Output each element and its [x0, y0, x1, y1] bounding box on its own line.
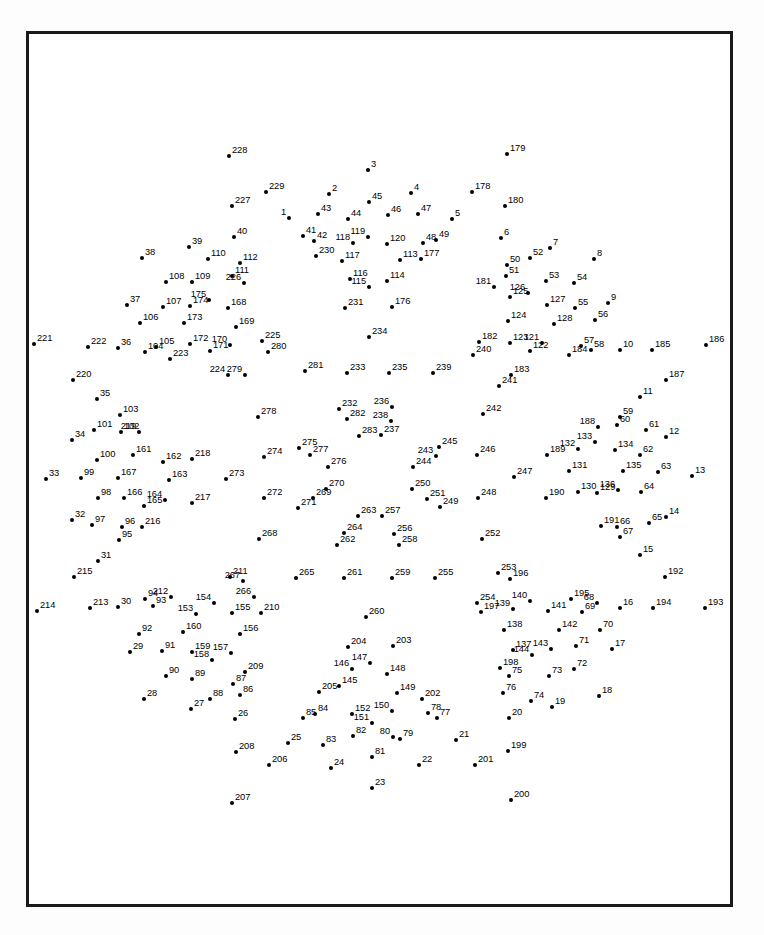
dot-number-252: 252: [485, 529, 500, 538]
dot-number-19: 19: [555, 697, 565, 706]
dot-number-13: 13: [695, 466, 705, 475]
dot-marker-189: [545, 453, 549, 457]
dot-number-15: 15: [643, 545, 653, 554]
dot-number-192: 192: [668, 567, 683, 576]
dot-number-142: 142: [562, 620, 577, 629]
dot-marker-145: [337, 684, 341, 688]
dot-marker-203: [391, 644, 395, 648]
dot-marker-251: [425, 497, 429, 501]
dot-marker-72: [572, 667, 576, 671]
dot-marker-80: [391, 735, 395, 739]
dot-number-248: 248: [481, 488, 496, 497]
dot-marker-268: [257, 537, 261, 541]
dot-number-177: 177: [424, 249, 439, 258]
dot-marker-254: [475, 601, 479, 605]
dot-marker-141: [546, 609, 550, 613]
dot-marker-101: [92, 428, 96, 432]
dot-marker-56: [593, 318, 597, 322]
dot-number-227: 227: [235, 196, 250, 205]
dot-marker-83: [321, 743, 325, 747]
dot-marker-32: [70, 518, 74, 522]
dot-number-253: 253: [501, 563, 516, 572]
dot-marker-54: [572, 281, 576, 285]
dot-marker-60: [615, 423, 619, 427]
dot-number-171: 171: [213, 341, 228, 350]
dot-marker-173: [182, 321, 186, 325]
dot-number-112: 112: [243, 253, 258, 262]
dot-number-235: 235: [392, 363, 407, 372]
dot-marker-39: [187, 245, 191, 249]
dot-marker-118: [351, 241, 355, 245]
dot-number-229: 229: [269, 182, 284, 191]
dot-marker-135: [621, 469, 625, 473]
dot-number-232: 232: [342, 399, 357, 408]
dot-marker-166: [122, 496, 126, 500]
dot-number-143: 143: [533, 639, 548, 648]
dot-number-109: 109: [195, 272, 210, 281]
dot-marker-241: [497, 384, 501, 388]
dot-number-255: 255: [438, 568, 453, 577]
dot-number-42: 42: [317, 231, 327, 240]
dot-number-122: 122: [533, 341, 548, 350]
dot-number-160: 160: [186, 622, 201, 631]
dot-marker-259: [390, 576, 394, 580]
dot-number-11: 11: [643, 387, 652, 396]
dot-marker-38: [140, 256, 144, 260]
dot-number-126: 126: [510, 283, 525, 292]
dot-number-189: 189: [550, 445, 565, 454]
dot-marker-27: [189, 707, 193, 711]
dot-marker-200: [509, 798, 513, 802]
dot-marker-202: [420, 697, 424, 701]
dot-number-219: 219: [121, 422, 136, 431]
dot-number-80: 80: [380, 727, 390, 736]
dot-number-266: 266: [236, 587, 251, 596]
dot-number-241: 241: [502, 376, 517, 385]
dot-marker-64: [639, 490, 643, 494]
dot-number-282: 282: [350, 409, 365, 418]
dot-number-133: 133: [577, 432, 592, 441]
dot-number-167: 167: [121, 468, 136, 477]
dot-number-180: 180: [508, 196, 523, 205]
dot-number-274: 274: [267, 447, 282, 456]
dot-marker-65: [647, 521, 651, 525]
dot-number-209: 209: [248, 662, 263, 671]
dot-marker-61: [644, 428, 648, 432]
dot-marker-114: [385, 279, 389, 283]
dot-number-166: 166: [127, 488, 142, 497]
dot-marker-180: [503, 204, 507, 208]
dot-number-134: 134: [618, 440, 633, 449]
dot-number-261: 261: [347, 568, 362, 577]
dot-marker-184: [567, 353, 571, 357]
dot-number-230: 230: [319, 246, 334, 255]
dot-number-283: 283: [362, 426, 377, 435]
dot-marker-175: [207, 298, 211, 302]
dot-number-222: 222: [91, 337, 106, 346]
dot-marker-165: [142, 504, 146, 508]
dot-number-38: 38: [145, 248, 155, 257]
dot-number-278: 278: [261, 407, 276, 416]
dot-marker-220: [71, 378, 75, 382]
dot-number-54: 54: [577, 273, 587, 282]
dot-number-3: 3: [371, 160, 376, 169]
dot-number-24: 24: [334, 758, 344, 767]
dot-number-101: 101: [97, 420, 112, 429]
dot-marker-148: [385, 672, 389, 676]
dot-marker-151: [370, 721, 374, 725]
dot-marker-234: [367, 335, 371, 339]
dot-number-188: 188: [580, 417, 595, 426]
dot-marker-46: [386, 213, 390, 217]
dot-number-100: 100: [100, 450, 115, 459]
dot-number-162: 162: [166, 452, 181, 461]
dot-number-71: 71: [579, 636, 589, 645]
dot-marker-120: [385, 242, 389, 246]
dot-number-213: 213: [93, 598, 108, 607]
dot-number-40: 40: [237, 227, 247, 236]
dot-marker-74: [529, 699, 533, 703]
dot-marker-139: [511, 607, 515, 611]
dot-number-228: 228: [232, 146, 247, 155]
dot-marker-15: [638, 553, 642, 557]
dot-marker-276: [326, 465, 330, 469]
dot-marker-33: [44, 477, 48, 481]
dot-number-250: 250: [415, 479, 430, 488]
dot-marker-35: [95, 397, 99, 401]
